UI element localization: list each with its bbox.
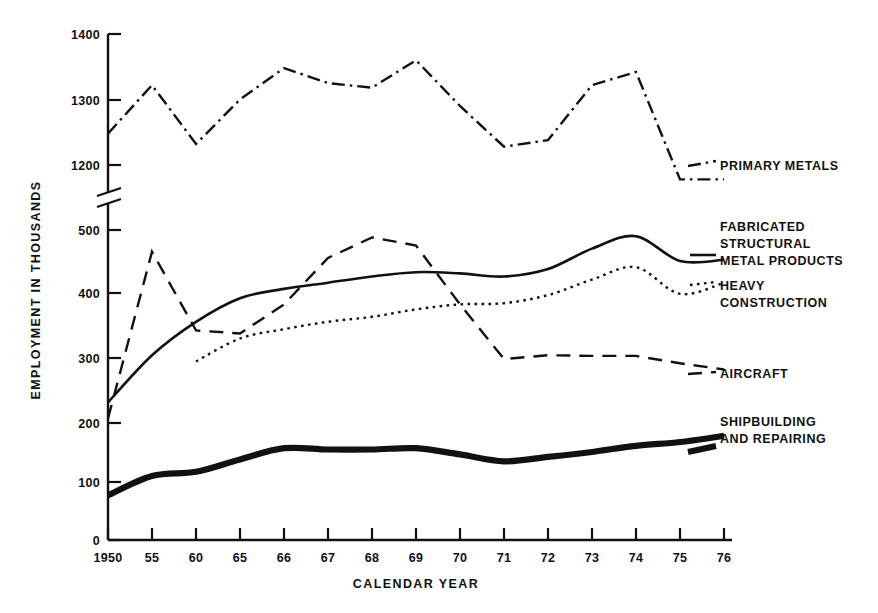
series-label-leader-heavy-construction (690, 282, 716, 285)
chart-canvas: 1400130012005004003002001000195055606566… (0, 0, 878, 613)
series-label-heavy-construction: CONSTRUCTION (720, 296, 827, 310)
x-axis-tick-label: 75 (673, 551, 688, 565)
x-axis-tick-label: 70 (453, 551, 468, 565)
employment-line-chart: 1400130012005004003002001000195055606566… (0, 0, 878, 613)
y-axis-tick-label: 100 (78, 476, 100, 490)
series-label-aircraft: AIRCRAFT (720, 367, 788, 381)
series-line-fabricated-structural-metal-products (108, 236, 724, 403)
x-axis-tick-label: 76 (717, 551, 732, 565)
x-axis-title: CALENDAR YEAR (353, 577, 479, 591)
x-axis-tick-label: 65 (233, 551, 248, 565)
series-label-shipbuilding-and-repairing: SHIPBUILDING (720, 415, 816, 429)
series-label-shipbuilding-and-repairing: AND REPAIRING (720, 432, 826, 446)
x-axis-tick-label: 69 (409, 551, 424, 565)
y-axis-tick-label: 1300 (71, 94, 100, 108)
series-line-shipbuilding-and-repairing (108, 436, 724, 496)
series-labels-layer: PRIMARY METALSFABRICATEDSTRUCTURALMETAL … (688, 159, 843, 452)
x-axis-tick-label: 1950 (93, 551, 122, 565)
series-label-leader-primary-metals (688, 161, 716, 166)
x-axis-tick-label: 55 (145, 551, 160, 565)
y-axis-tick-label: 200 (78, 417, 100, 431)
y-axis-title: EMPLOYMENT IN THOUSANDS (29, 180, 43, 399)
axes-layer: 1400130012005004003002001000195055606566… (29, 28, 732, 591)
y-axis-tick-label: 1400 (71, 28, 100, 42)
series-label-primary-metals: PRIMARY METALS (720, 159, 839, 173)
x-axis-tick-label: 68 (365, 551, 380, 565)
y-axis-tick-label: 0 (93, 534, 100, 548)
series-line-heavy-construction (196, 267, 724, 362)
x-axis-tick-label: 66 (277, 551, 292, 565)
series-line-primary-metals (108, 60, 724, 179)
series-line-aircraft (108, 237, 724, 418)
series-label-leader-shipbuilding-and-repairing (688, 446, 716, 452)
series-label-fabricated-structural-metal-products: FABRICATED (720, 220, 805, 234)
x-axis-tick-label: 67 (321, 551, 336, 565)
x-axis-tick-label: 60 (189, 551, 204, 565)
series-label-heavy-construction: HEAVY (720, 279, 765, 293)
series-label-leader-aircraft (688, 372, 716, 374)
series-label-fabricated-structural-metal-products: METAL PRODUCTS (720, 254, 843, 268)
series-layer (108, 60, 724, 495)
x-axis-tick-label: 71 (497, 551, 512, 565)
x-axis-tick-label: 73 (585, 551, 600, 565)
x-axis-tick-label: 72 (541, 551, 556, 565)
series-label-fabricated-structural-metal-products: STRUCTURAL (720, 237, 811, 251)
x-axis-tick-label: 74 (629, 551, 644, 565)
y-axis-tick-label: 400 (78, 287, 100, 301)
y-axis-tick-label: 1200 (71, 159, 100, 173)
y-axis-tick-label: 500 (78, 224, 100, 238)
y-axis-tick-label: 300 (78, 352, 100, 366)
